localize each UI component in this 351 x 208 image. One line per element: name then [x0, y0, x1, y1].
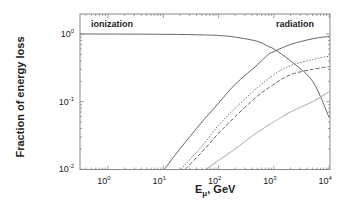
series-bremsstrahlung — [185, 67, 329, 170]
series-ionization — [79, 34, 329, 118]
x-tick-label: 100 — [97, 175, 111, 186]
series-pair-production — [181, 56, 329, 169]
x-axis-title: Eμ, GeV — [195, 183, 236, 198]
annotation-radiation: radiation — [276, 19, 314, 29]
series-photonuclear — [206, 92, 329, 170]
plot-frame — [80, 14, 330, 170]
y-tick-label: 100 — [61, 28, 75, 39]
y-axis-title: Fraction of energy loss — [14, 36, 26, 157]
energy-loss-chart: 10010110210310410010-110-2 ionization ra… — [0, 0, 351, 208]
x-axis-title-main: E — [195, 183, 202, 195]
annotation-ionization: ionization — [91, 19, 133, 29]
y-tick-label: 10-1 — [59, 96, 75, 107]
x-tick-label: 101 — [153, 175, 167, 186]
axis-ticks — [80, 14, 330, 170]
axis-tick-labels: 10010110210310410010-110-2 — [59, 28, 333, 186]
x-tick-label: 103 — [263, 175, 277, 186]
x-axis-title-rest: , GeV — [207, 183, 236, 195]
series-radiation-total — [165, 36, 330, 169]
x-tick-label: 104 — [319, 175, 333, 186]
plot-curves — [79, 34, 329, 169]
y-tick-label: 10-2 — [59, 163, 75, 174]
